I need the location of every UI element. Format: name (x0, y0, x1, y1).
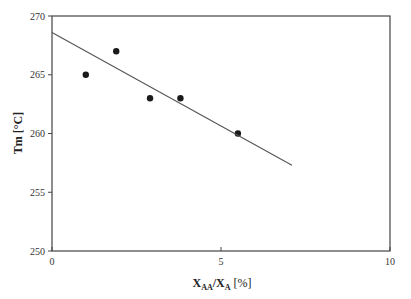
chart: 2502552602652700510 Tm [°C] XAA/XA [%] (0, 0, 411, 299)
y-axis-title: Tm [°C] (11, 112, 25, 154)
data-point (147, 95, 153, 101)
y-tick-label: 265 (30, 69, 45, 80)
y-tick-label: 270 (30, 11, 45, 22)
x-axis-title: XAA/XA [%] (192, 276, 251, 292)
data-point (113, 48, 119, 54)
x-tick-label: 5 (219, 256, 224, 267)
y-tick-label: 250 (30, 246, 45, 257)
plot-frame (52, 16, 390, 251)
plot-area: 2502552602652700510 (30, 11, 395, 268)
y-tick-label: 260 (30, 128, 45, 139)
fit-line (52, 32, 292, 165)
x-tick-label: 0 (50, 256, 55, 267)
y-tick-label: 255 (30, 187, 45, 198)
data-point (83, 72, 89, 78)
data-point (177, 95, 183, 101)
x-tick-label: 10 (385, 256, 395, 267)
